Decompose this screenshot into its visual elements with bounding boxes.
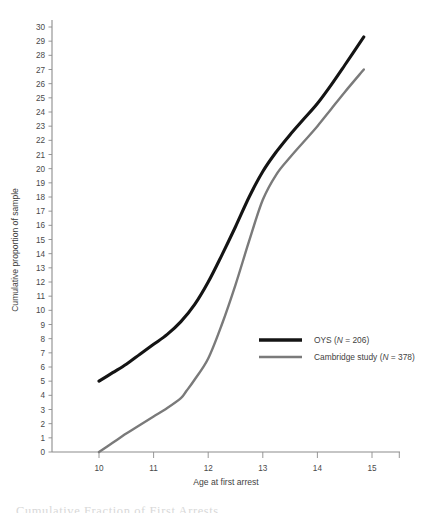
y-tick-label: 29 [36,37,46,46]
y-axis-tick-labels: 0123456789101112131415161718192021222324… [36,23,46,457]
y-tick-label: 19 [36,179,46,188]
x-tick-label: 11 [149,464,158,473]
x-tick-label: 13 [258,464,268,473]
y-tick-label: 13 [36,264,46,273]
y-tick-label: 7 [40,349,45,358]
x-axis-ticks [99,452,399,458]
y-axis-title: Cumulative proportion of sample [10,188,20,312]
y-tick-label: 18 [36,193,46,202]
x-axis-title: Age at first arrest [193,477,259,487]
legend-label-oys: OYS (N = 206) [314,335,369,345]
y-tick-label: 6 [40,363,45,372]
x-tick-label: 12 [204,464,214,473]
y-tick-label: 30 [36,23,46,32]
x-tick-label: 14 [313,464,323,473]
y-tick-label: 15 [36,236,46,245]
y-tick-label: 0 [40,448,45,457]
y-tick-label: 26 [36,80,46,89]
y-tick-label: 27 [36,66,46,75]
y-tick-label: 25 [36,94,46,103]
y-tick-label: 11 [37,292,46,301]
y-tick-label: 28 [36,51,46,60]
y-tick-label: 20 [36,165,46,174]
chart-series [99,37,364,452]
x-tick-label: 10 [94,464,104,473]
series-line-cambridge [99,70,364,453]
y-tick-label: 9 [40,321,45,330]
y-tick-label: 2 [40,420,45,429]
y-tick-label: 4 [40,391,45,400]
y-tick-label: 24 [36,108,46,117]
x-axis-tick-labels: 101112131415 [94,464,377,473]
y-tick-label: 12 [36,278,46,287]
chart-axes [49,20,401,458]
y-tick-label: 17 [36,207,46,216]
y-tick-label: 21 [36,151,46,160]
series-line-oys [99,37,364,381]
y-tick-label: 1 [40,434,45,443]
figure-caption: Cumulative Fraction of First Arrests [16,504,219,513]
y-tick-label: 8 [40,335,45,344]
y-tick-label: 5 [40,377,45,386]
y-tick-label: 3 [40,406,45,415]
chart-legend: OYS (N = 206)Cambridge study (N = 378) [259,335,415,362]
y-tick-label: 14 [36,250,46,259]
legend-label-cambridge: Cambridge study (N = 378) [314,352,415,362]
y-tick-label: 22 [36,136,46,145]
x-tick-label: 15 [367,464,377,473]
y-tick-label: 23 [36,122,46,131]
y-tick-label: 10 [36,306,46,315]
y-tick-label: 16 [36,221,46,230]
